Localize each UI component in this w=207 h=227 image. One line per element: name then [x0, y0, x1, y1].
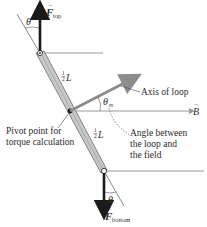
svg-text:the field: the field [130, 150, 162, 160]
svg-text:the loop and: the loop and [130, 139, 177, 149]
theta-top-label: θ [26, 16, 31, 27]
theta-m-label: θ m [103, 96, 113, 108]
angle-caption: Angle between the loop and the field [130, 128, 187, 160]
axis-of-loop-label: Axis of loop [141, 87, 189, 97]
half-l-bottom-label: 1 2 L [94, 127, 105, 140]
pivot-caption: Pivot point for torque calculation [6, 126, 75, 147]
top-wire-end-dot [39, 52, 41, 54]
svg-text:L: L [97, 129, 104, 140]
svg-text:→: → [193, 101, 199, 107]
svg-text:2: 2 [94, 133, 97, 139]
svg-text:→: → [47, 2, 53, 8]
f-bottom-label: F → bottom [104, 206, 130, 223]
svg-text:Pivot point for: Pivot point for [6, 126, 62, 136]
angle-leader-line [109, 108, 130, 135]
svg-text:B: B [193, 106, 199, 117]
svg-text:bottom: bottom [112, 216, 130, 223]
svg-text:θ: θ [103, 96, 108, 107]
b-field-label: B → [193, 101, 199, 117]
svg-text:m: m [109, 102, 113, 108]
svg-text:L: L [65, 72, 72, 83]
bottom-wire-end [101, 168, 106, 173]
svg-text:torque calculation: torque calculation [6, 137, 75, 147]
half-l-top-label: 1 2 L [62, 70, 73, 83]
theta-bottom-label: θ [108, 194, 113, 205]
theta-arc-top [25, 27, 40, 28]
torque-loop-diagram: θ F → top 1 2 L Axis of loop θ m B → Ang… [0, 0, 207, 227]
theta-m-arc [98, 97, 101, 111]
svg-text:→: → [106, 206, 112, 212]
theta-arc-bottom [104, 192, 116, 193]
f-top-label: F → top [45, 2, 61, 19]
theta-reference-line-bottom [104, 171, 124, 206]
svg-text:2: 2 [62, 76, 65, 82]
axis-of-loop-arrow [70, 79, 132, 111]
axis-leader-line [121, 86, 140, 92]
svg-text:Angle between: Angle between [130, 128, 187, 138]
svg-text:top: top [53, 12, 61, 19]
